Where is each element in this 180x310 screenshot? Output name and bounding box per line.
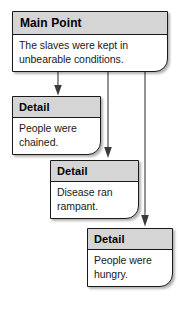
node-detail-2-body: Disease ran rampant.	[51, 182, 138, 218]
node-main-point-header: Main Point	[13, 12, 167, 35]
connector-main-to-detail-3	[141, 70, 149, 227]
node-detail-3-body: People were hungry.	[88, 250, 172, 286]
node-main-point[interactable]: Main Point The slaves were kept in unbea…	[12, 11, 168, 72]
flowchart-diagram: Main Point The slaves were kept in unbea…	[0, 0, 180, 310]
node-detail-2[interactable]: Detail Disease ran rampant.	[50, 160, 139, 219]
node-detail-1[interactable]: Detail People were chained.	[12, 96, 101, 155]
node-detail-1-header: Detail	[13, 97, 100, 118]
node-detail-2-header: Detail	[51, 161, 138, 182]
node-main-point-body: The slaves were kept in unbearable condi…	[13, 35, 167, 71]
connector-main-to-detail-2	[104, 70, 112, 158]
node-detail-3[interactable]: Detail People were hungry.	[87, 228, 173, 287]
node-detail-1-body: People were chained.	[13, 118, 100, 154]
node-detail-3-header: Detail	[88, 229, 172, 250]
connector-main-to-detail-1	[54, 70, 62, 96]
